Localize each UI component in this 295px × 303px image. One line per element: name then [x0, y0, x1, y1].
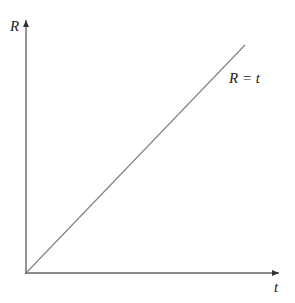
x-axis-label: t	[274, 279, 279, 295]
diagram: R t R = t	[0, 0, 295, 303]
line-r-equals-t	[26, 45, 245, 273]
line-label: R = t	[228, 70, 261, 86]
y-axis-label: R	[9, 18, 19, 34]
